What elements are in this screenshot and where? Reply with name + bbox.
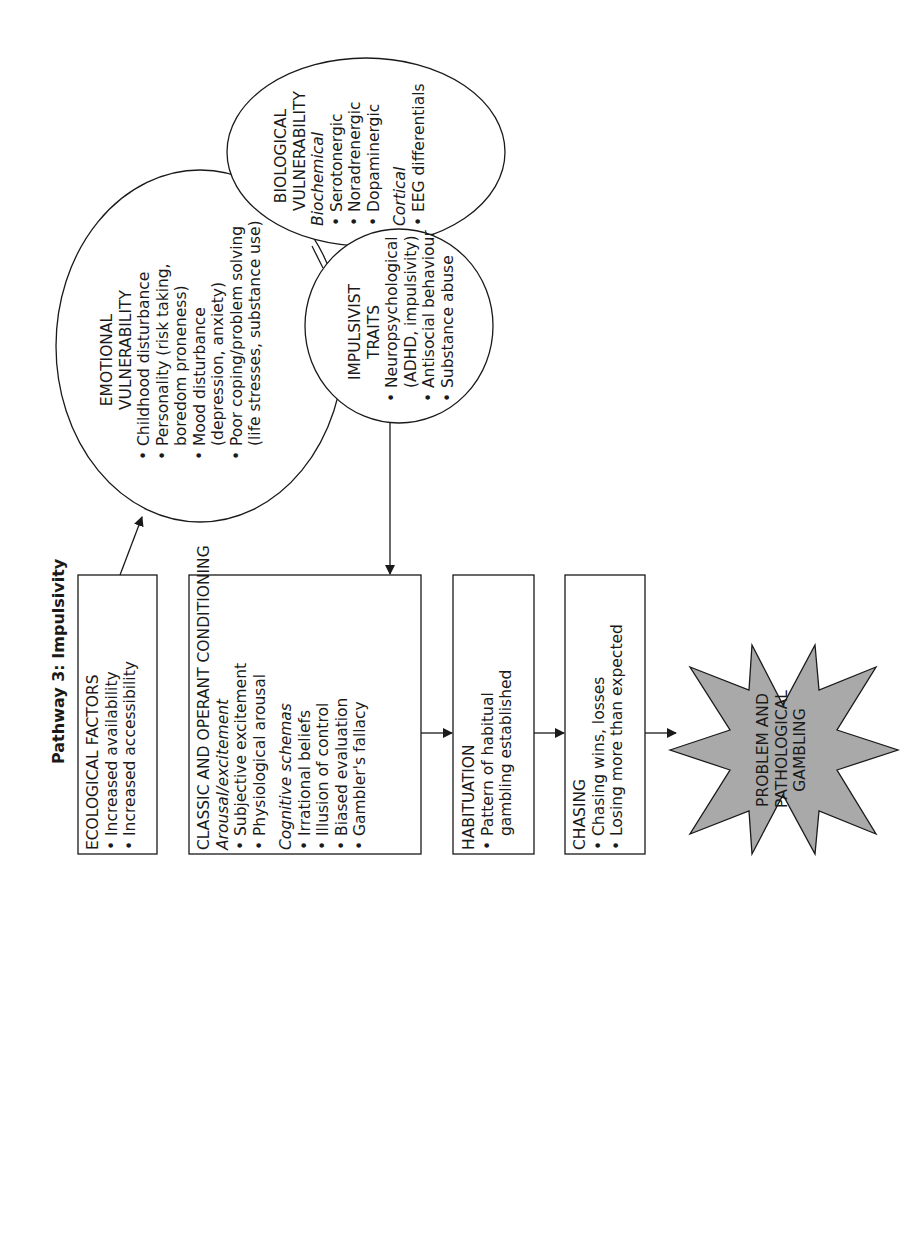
chasing-heading: CHASING [571, 624, 590, 850]
ecological-item: Increased availability [103, 661, 122, 850]
impulsivist-item-text: Substance abuse [439, 255, 457, 388]
impulsivist-item-text: Neuropsychological [383, 236, 401, 388]
emotional-item-text: Poor coping/problem solving [228, 226, 246, 446]
chasing-item: Losing more than expected [608, 624, 627, 850]
arrow-ecological-to-emotional [120, 517, 142, 575]
impulsivist-item-text: Antisocial behaviour [420, 230, 438, 388]
emotional-heading: EMOTIONAL [98, 260, 117, 460]
impulsivist-text: IMPULSIVIST TRAITS Neuropsychological(AD… [346, 232, 457, 402]
emotional-item-text: boredom proneness) [172, 285, 190, 446]
emotional-item: Childhood disturbance [135, 170, 154, 460]
emotional-heading: VULNERABILITY [117, 240, 136, 460]
cognitive-item: Biased evaluation [333, 545, 352, 850]
biological-heading: VULNERABILITY [291, 76, 310, 226]
impulsivist-item: Neuropsychological(ADHD, impulsivity) [383, 232, 420, 402]
biochemical-label: Biochemical [309, 46, 328, 226]
biochemical-item: Serotonergic [328, 46, 347, 226]
cognitive-label: Cognitive schemas [277, 545, 296, 850]
biochemical-item: Noradrenergic [346, 46, 365, 226]
habituation-heading: HABITUATION [460, 656, 479, 850]
emotional-item-text: (depression, anxiety) [209, 282, 227, 446]
impulsivist-item: Antisocial behaviour [420, 232, 439, 402]
conditioning-heading: CLASSIC AND OPERANT CONDITIONING [195, 545, 214, 850]
chasing-item: Chasing wins, losses [590, 624, 609, 850]
ecological-heading: ECOLOGICAL FACTORS [84, 661, 103, 850]
emotional-item-text: Mood disturbance [191, 307, 209, 446]
emotional-item-text: Childhood disturbance [135, 272, 153, 446]
arousal-item: Physiological arousal [251, 545, 270, 850]
outcome-line: PROBLEM AND [754, 692, 773, 808]
arousal-label: Arousal/excitement [214, 545, 233, 850]
biological-heading: BIOLOGICAL [272, 86, 291, 226]
ecological-factors-text: ECOLOGICAL FACTORS Increased availabilit… [84, 661, 140, 850]
cortical-item: EEG differentials [410, 46, 429, 226]
impulsivist-item: Substance abuse [439, 232, 458, 402]
impulsivist-heading: TRAITS [365, 262, 384, 402]
emotional-item-text: Personality (risk taking, [154, 263, 172, 446]
cognitive-item: Gambler's fallacy [351, 545, 370, 850]
conditioning-text: CLASSIC AND OPERANT CONDITIONING Arousal… [195, 545, 370, 850]
habituation-item: Pattern of habitual gambling established [479, 656, 516, 850]
diagram-title: Pathway 3: Impulsivity [50, 559, 69, 764]
habituation-text: HABITUATION Pattern of habitual gambling… [460, 656, 516, 850]
outcome-line: GAMBLING [791, 692, 810, 808]
emotional-item: Mood disturbance(depression, anxiety) [191, 170, 228, 460]
outcome-line: PATHOLOGICAL [773, 692, 792, 808]
biochemical-item: Dopaminergic [365, 46, 384, 226]
cortical-label: Cortical [391, 46, 410, 226]
emotional-item-text: (life stresses, substance use) [246, 220, 264, 446]
emotional-item: Personality (risk taking,boredom pronene… [154, 170, 191, 460]
emotional-item: Poor coping/problem solving(life stresse… [228, 170, 265, 460]
biological-text: BIOLOGICAL VULNERABILITY Biochemical Ser… [272, 46, 428, 226]
impulsivist-heading: IMPULSIVIST [346, 262, 365, 402]
chasing-text: CHASING Chasing wins, losses Losing more… [571, 624, 627, 850]
arousal-item: Subjective excitement [232, 545, 251, 850]
outcome-text: PROBLEM AND PATHOLOGICAL GAMBLING [754, 692, 810, 808]
impulsivist-item-text: (ADHD, impulsivity) [402, 235, 420, 388]
emotional-text: EMOTIONAL VULNERABILITY Childhood distur… [98, 170, 265, 460]
cognitive-item: Illusion of control [314, 545, 333, 850]
cognitive-item: Irrational beliefs [296, 545, 315, 850]
ecological-item: Increased accessibility [121, 661, 140, 850]
